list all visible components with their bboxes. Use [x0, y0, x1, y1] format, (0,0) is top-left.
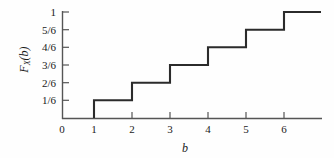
ytick-text: 3/6: [42, 60, 56, 71]
cdf-step-curve: [94, 12, 321, 118]
y-axis-label: FX(b): [17, 26, 32, 94]
x-axis-label: b: [160, 141, 210, 156]
x-axis-ticks: [94, 112, 284, 118]
ytick-text: 1/6: [42, 95, 56, 106]
y-axis-label-arg: (b): [17, 46, 31, 60]
xtick-label-5: 5: [236, 124, 256, 135]
cdf-step-chart: 1 5/6 4/6 3/6 2/6 1/6 0 1 2 3 4 5 6 FX(b…: [0, 0, 334, 158]
xtick-label-0: 0: [52, 124, 72, 135]
xtick-label-4: 4: [198, 124, 218, 135]
xtick-label-1: 1: [84, 124, 104, 135]
xtick-label-3: 3: [160, 124, 180, 135]
ytick-text: 1: [51, 7, 57, 18]
y-axis-label-subscript: X: [23, 60, 32, 65]
y-axis-label-base: F: [17, 65, 31, 72]
ytick-text: 4/6: [42, 42, 56, 53]
xtick-label-2: 2: [122, 124, 142, 135]
xtick-label-6: 6: [274, 124, 294, 135]
ytick-text: 5/6: [42, 25, 56, 36]
ytick-text: 2/6: [42, 78, 56, 89]
